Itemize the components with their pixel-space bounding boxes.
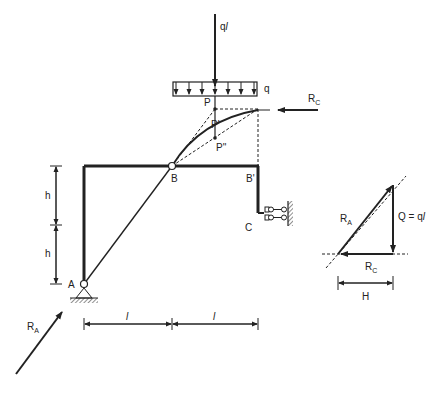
height-dimension bbox=[50, 166, 62, 284]
span-dimension bbox=[84, 318, 258, 330]
height-h1-label: h bbox=[45, 190, 51, 201]
force-polygon bbox=[322, 176, 408, 290]
point-p-label: P bbox=[204, 97, 211, 108]
frame-diagram: ql q P P' P'' RC bbox=[0, 0, 441, 393]
reaction-rc-label: RC bbox=[308, 93, 320, 106]
polygon-rc-label: RC bbox=[365, 261, 377, 274]
polygon-q-label: Q = ql bbox=[398, 211, 426, 222]
diagonal-strut bbox=[84, 166, 172, 284]
node-c-label: C bbox=[245, 222, 252, 233]
load-ql-label: ql bbox=[220, 21, 229, 32]
span-l1-label: l bbox=[126, 311, 129, 322]
hinge-b bbox=[169, 163, 176, 170]
reaction-ra-arrow bbox=[16, 312, 62, 374]
node-b1-label: B' bbox=[246, 173, 255, 184]
polygon-ra-label: RA bbox=[340, 213, 352, 226]
roller-support-c bbox=[265, 201, 293, 226]
pin-support-a bbox=[70, 288, 98, 303]
hinge-a bbox=[81, 281, 88, 288]
node-b-label: B bbox=[171, 173, 178, 184]
reaction-ra-label: RA bbox=[27, 321, 39, 334]
node-a-label: A bbox=[68, 279, 75, 290]
polygon-h-label: H bbox=[362, 291, 369, 302]
point-p2-label: P'' bbox=[216, 142, 227, 153]
distributed-load bbox=[173, 82, 257, 96]
span-l2-label: l bbox=[213, 311, 216, 322]
distributed-load-label: q bbox=[264, 83, 270, 94]
height-h2-label: h bbox=[45, 248, 51, 259]
